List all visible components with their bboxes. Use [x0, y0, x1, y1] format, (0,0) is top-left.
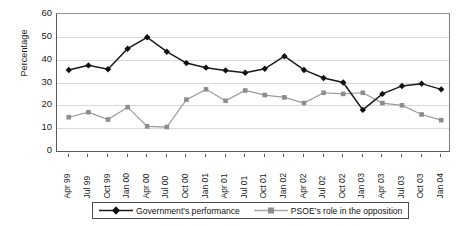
- x-tick-label: Jan 00: [122, 172, 131, 198]
- data-point: [125, 105, 130, 110]
- data-point: [67, 115, 72, 120]
- x-tick-label: Jul 00: [161, 175, 170, 198]
- y-tick-label: 60: [6, 8, 52, 18]
- x-tick-label: Oct 01: [259, 173, 268, 198]
- x-tick-label: Oct 99: [102, 173, 111, 198]
- data-point: [419, 112, 424, 117]
- series-lines: [57, 14, 449, 151]
- data-point: [243, 88, 248, 93]
- data-point: [203, 64, 209, 70]
- x-tick-mark: [283, 154, 284, 157]
- y-axis-tick-labels: 6050403020100: [0, 13, 52, 152]
- y-tick-label: 20: [6, 99, 52, 109]
- data-point: [400, 103, 405, 108]
- x-tick-label: Jul 99: [82, 175, 91, 198]
- x-tick-label: Apr 00: [141, 173, 150, 198]
- y-tick-label: 40: [6, 54, 52, 64]
- data-point: [222, 67, 228, 73]
- x-tick-mark: [421, 154, 422, 157]
- x-tick-mark: [303, 154, 304, 157]
- x-tick-mark: [264, 154, 265, 157]
- data-point: [86, 110, 91, 115]
- data-point: [263, 93, 268, 98]
- x-tick-mark: [323, 154, 324, 157]
- x-tick-label: Apr 99: [63, 173, 72, 198]
- x-tick-label: Jul 01: [239, 175, 248, 198]
- x-tick-mark: [244, 154, 245, 157]
- y-tick-label: 30: [6, 77, 52, 87]
- data-point: [183, 60, 189, 66]
- data-point: [223, 98, 228, 103]
- data-point: [418, 80, 424, 86]
- x-tick-mark: [342, 154, 343, 157]
- x-tick-label: Apr 01: [220, 173, 229, 198]
- data-point: [282, 95, 287, 100]
- x-tick-mark: [166, 154, 167, 157]
- x-tick-mark: [362, 154, 363, 157]
- x-tick-mark: [440, 154, 441, 157]
- legend-label-government: Government's performance: [136, 206, 240, 216]
- chart-legend: Government's performance PSOE's role in …: [92, 202, 409, 219]
- y-tick-label: 10: [6, 122, 52, 132]
- x-tick-mark: [146, 154, 147, 157]
- x-tick-mark: [87, 154, 88, 157]
- legend-label-psoe: PSOE's role in the opposition: [291, 206, 403, 216]
- x-tick-label: Oct 02: [337, 173, 346, 198]
- series-psoe: [67, 87, 444, 129]
- x-axis-tick-labels: Apr 99Jul 99Oct 99Jan 00Apr 00Jul 00Oct …: [56, 154, 450, 198]
- x-tick-mark: [107, 154, 108, 157]
- data-point: [302, 101, 307, 106]
- data-point: [165, 125, 170, 130]
- x-tick-label: Jul 03: [396, 175, 405, 198]
- x-tick-label: Jan 04: [435, 172, 444, 198]
- x-tick-mark: [127, 154, 128, 157]
- data-point: [204, 87, 209, 92]
- data-point: [66, 67, 72, 73]
- chart-container: Percentage 6050403020100 Apr 99Jul 99Oct…: [0, 0, 466, 226]
- x-tick-mark: [401, 154, 402, 157]
- data-point: [320, 75, 326, 81]
- x-tick-label: Oct 00: [180, 173, 189, 198]
- x-tick-label: Apr 03: [376, 173, 385, 198]
- legend-swatch-diamond-icon: [99, 205, 133, 216]
- data-point: [184, 97, 189, 102]
- plot-area: [56, 13, 450, 152]
- y-tick-label: 0: [6, 145, 52, 155]
- series-government: [66, 34, 445, 113]
- x-tick-label: Jan 03: [357, 172, 366, 198]
- x-tick-mark: [381, 154, 382, 157]
- x-tick-mark: [225, 154, 226, 157]
- data-point: [361, 90, 366, 95]
- y-tick-label: 50: [6, 31, 52, 41]
- data-point: [438, 86, 444, 92]
- x-tick-mark: [68, 154, 69, 157]
- data-point: [106, 117, 111, 122]
- data-point: [85, 62, 91, 68]
- x-tick-label: Jan 02: [278, 172, 287, 198]
- x-tick-label: Oct 03: [416, 173, 425, 198]
- x-tick-label: Apr 02: [298, 173, 307, 198]
- x-tick-label: Jul 02: [318, 175, 327, 198]
- data-point: [242, 69, 248, 75]
- data-point: [380, 101, 385, 106]
- x-tick-label: Jan 01: [200, 172, 209, 198]
- legend-swatch-square-icon: [254, 205, 288, 216]
- data-point: [321, 90, 326, 95]
- data-point: [399, 83, 405, 89]
- legend-item-psoe: PSOE's role in the opposition: [254, 205, 403, 216]
- data-point: [439, 118, 444, 123]
- legend-item-government: Government's performance: [99, 205, 240, 216]
- x-tick-mark: [205, 154, 206, 157]
- data-point: [341, 92, 346, 97]
- x-tick-mark: [185, 154, 186, 157]
- data-point: [145, 124, 150, 129]
